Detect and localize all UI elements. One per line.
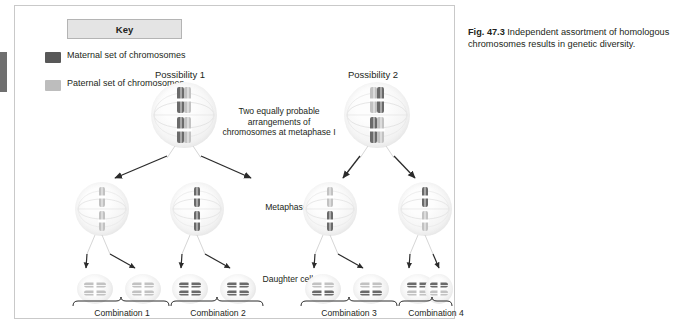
chromosome-paternal bbox=[84, 291, 106, 296]
daughter-cell-1a bbox=[77, 274, 113, 304]
chromosome-maternal bbox=[194, 211, 200, 231]
metaphase-1-note: Two equally probable arrangements of chr… bbox=[220, 106, 338, 138]
daughter-cell-2a bbox=[172, 274, 208, 304]
daughter-cell-2b bbox=[220, 274, 256, 304]
chromosome-maternal bbox=[194, 187, 200, 207]
chromosome-group bbox=[194, 187, 200, 231]
metaphase-2-cell-2 bbox=[170, 182, 224, 236]
daughter-cell-3b bbox=[353, 274, 389, 304]
metaphase-2-cell-3 bbox=[303, 182, 357, 236]
metaphase-2-cell-1 bbox=[75, 182, 129, 236]
daughter-cell-3a bbox=[305, 274, 341, 304]
combination-4-label: Combination 4 bbox=[390, 308, 482, 318]
homologous-pair-bottom bbox=[177, 117, 191, 143]
chromosome-maternal bbox=[227, 283, 249, 288]
homologous-pair-top bbox=[177, 87, 191, 113]
metaphase-1-cell-possibility-1 bbox=[151, 82, 217, 148]
metaphase-2-cell-4 bbox=[398, 182, 452, 236]
figure-caption: Fig. 47.3 Independent assortment of homo… bbox=[468, 26, 673, 50]
chromosome-maternal bbox=[227, 291, 249, 296]
key-item-maternal-label: Maternal set of chromosomes bbox=[67, 50, 186, 61]
chromosome-group bbox=[430, 283, 448, 296]
chromosome-paternal bbox=[99, 211, 105, 231]
chromosome-maternal bbox=[312, 291, 334, 296]
chromosome-paternal bbox=[327, 187, 333, 207]
chromosome-paternal bbox=[430, 291, 448, 296]
chromosome-paternal bbox=[184, 87, 191, 113]
chromosome-paternal bbox=[84, 283, 106, 288]
daughter-cell-1b bbox=[125, 274, 161, 304]
chromosome-maternal bbox=[430, 283, 448, 288]
daughter-cell-4b bbox=[425, 274, 453, 304]
chromosome-group bbox=[132, 283, 154, 296]
chromosome-maternal bbox=[327, 211, 333, 231]
chromosome-group bbox=[370, 87, 384, 143]
chromosome-paternal bbox=[99, 187, 105, 207]
chromosome-maternal bbox=[179, 283, 201, 288]
chromosome-group bbox=[312, 283, 334, 296]
metaphase-1-cell-possibility-2 bbox=[344, 82, 410, 148]
chromosome-maternal bbox=[377, 87, 384, 113]
key-item-maternal: Maternal set of chromosomes bbox=[45, 50, 186, 63]
chromosome-group bbox=[327, 187, 333, 231]
maternal-color-swatch bbox=[45, 52, 61, 63]
chromosome-paternal bbox=[377, 117, 384, 143]
chromosome-paternal bbox=[132, 291, 154, 296]
chromosome-group bbox=[227, 283, 249, 296]
chromosome-maternal bbox=[422, 187, 428, 207]
chromosome-paternal bbox=[360, 283, 382, 288]
chromosome-group bbox=[177, 87, 191, 143]
homologous-pair-bottom bbox=[370, 117, 384, 143]
chromosome-group bbox=[84, 283, 106, 296]
chromosome-paternal bbox=[312, 283, 334, 288]
chromosome-group bbox=[422, 187, 428, 231]
possibility-1-label: Possibility 1 bbox=[155, 69, 205, 80]
combination-2-label: Combination 2 bbox=[172, 308, 264, 318]
chromosome-group bbox=[179, 283, 201, 296]
chromosome-paternal bbox=[132, 283, 154, 288]
chromosome-paternal bbox=[422, 211, 428, 231]
combination-1-label: Combination 1 bbox=[76, 308, 168, 318]
paternal-color-swatch bbox=[45, 80, 61, 91]
chromosome-paternal bbox=[184, 117, 191, 143]
chromosome-group bbox=[99, 187, 105, 231]
homologous-pair-top bbox=[370, 87, 384, 113]
chromosome-group bbox=[360, 283, 382, 296]
figure-number: Fig. 47.3 bbox=[468, 27, 505, 37]
chromosome-maternal bbox=[179, 291, 201, 296]
chromosome-maternal bbox=[360, 291, 382, 296]
combination-3-label: Combination 3 bbox=[303, 308, 395, 318]
key-title: Key bbox=[116, 24, 133, 35]
possibility-2-label: Possibility 2 bbox=[348, 69, 398, 80]
page-edge-tab bbox=[0, 52, 7, 92]
figure-panel: Key Maternal set of chromosomes Paternal… bbox=[14, 5, 455, 319]
key-title-box: Key bbox=[67, 19, 182, 39]
